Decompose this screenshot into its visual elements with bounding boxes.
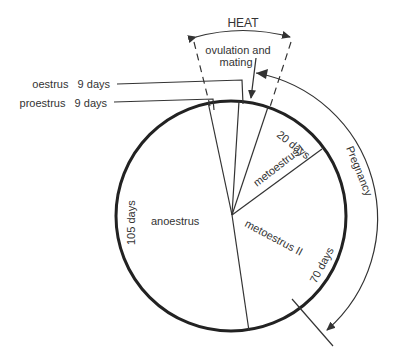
ovulation-label-line2: mating: [219, 56, 252, 68]
duration-105-days: 105 days: [125, 200, 137, 245]
pregnancy-end-tick: [292, 299, 333, 346]
ovulation-label-line1: ovulation and: [205, 44, 270, 56]
heat-label: HEAT: [227, 16, 259, 30]
boundary-metoestrus-ii-end: [232, 215, 249, 331]
phase-boundaries: [208, 101, 322, 331]
pregnancy-arrow-start-head: [256, 69, 268, 79]
boundary-proestrus-start: [208, 102, 232, 215]
metoestrus-ii-label: metoestrus II: [243, 217, 305, 257]
oestrous-cycle-diagram: HEAT ovulation and mating oestrus 9 days…: [0, 0, 404, 362]
oestrus-label: oestrus 9 days: [32, 78, 110, 90]
heat-arc-arrow: [196, 31, 290, 38]
leader-lines: [114, 80, 243, 110]
proestrus-label: proestrus 9 days: [20, 97, 108, 109]
pregnancy-label: Pregnancy: [344, 144, 375, 198]
duration-70-days: 70 days: [307, 245, 336, 285]
anoestrus-label: anoestrus: [151, 215, 200, 227]
